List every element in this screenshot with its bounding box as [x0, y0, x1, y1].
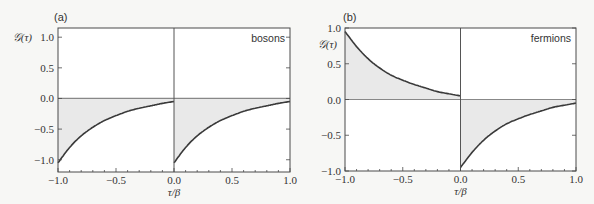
- y-tick-label: 0.0: [327, 94, 341, 106]
- y-tick-label: −1.0: [321, 165, 341, 177]
- y-tick-label: 0.5: [40, 62, 54, 74]
- panel-a: −1.0−0.50.00.51.0−1.0−0.50.00.51.0τ/β𝒢(τ…: [13, 11, 298, 198]
- y-tick-label: 0.5: [327, 58, 341, 70]
- annotation-bosons: bosons: [251, 32, 285, 44]
- x-tick-label: 1.0: [569, 173, 583, 185]
- figure: −1.0−0.50.00.51.0−1.0−0.50.00.51.0τ/β𝒢(τ…: [0, 0, 594, 204]
- panel-label: (a): [54, 11, 67, 23]
- panel-label: (b): [343, 11, 356, 23]
- x-tick-label: −0.5: [393, 173, 413, 185]
- y-tick-label: −1.0: [34, 154, 54, 166]
- y-tick-label: 1.0: [327, 22, 341, 34]
- y-tick-label: −0.5: [321, 129, 341, 141]
- y-tick-label: −0.5: [34, 123, 54, 135]
- x-tick-label: −1.0: [48, 174, 68, 186]
- annotation-fermions: fermions: [531, 32, 571, 44]
- x-tick-label: 0.0: [454, 173, 468, 185]
- x-tick-label: 0.0: [167, 174, 181, 186]
- y-tick-label: 0.0: [40, 92, 54, 104]
- x-tick-label: −0.5: [106, 174, 126, 186]
- panel-b: −1.0−0.50.00.51.0−1.0−0.50.00.51.0τ/β𝒢(τ…: [318, 11, 584, 197]
- x-tick-label: 0.5: [225, 174, 239, 186]
- y-axis-label: 𝒢(τ): [13, 31, 33, 44]
- x-axis-label: τ/β: [168, 186, 181, 198]
- x-tick-label: 0.5: [511, 173, 525, 185]
- x-tick-label: 1.0: [283, 174, 297, 186]
- x-axis-label: τ/β: [454, 185, 467, 197]
- y-axis-label: 𝒢(τ): [318, 38, 338, 51]
- y-tick-label: 1.0: [40, 31, 54, 43]
